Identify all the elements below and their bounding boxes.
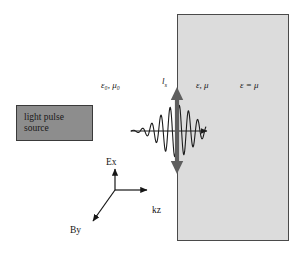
by-axis-arrow	[93, 190, 115, 221]
double-arrow-head-down	[171, 161, 183, 174]
figure-canvas: light pulse source ε₀, μ₀ ls ε, μ ε = μ …	[0, 0, 301, 257]
coordinate-axes	[93, 169, 147, 221]
double-arrow-head-up	[171, 87, 183, 100]
vector-overlay	[0, 0, 301, 257]
